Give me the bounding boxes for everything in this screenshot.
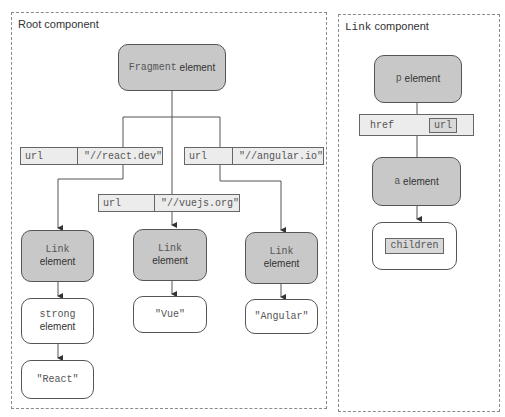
- a-element-node: a element: [372, 157, 461, 206]
- url-prop-vue: url"//vuejs.org": [98, 194, 240, 212]
- link-element-react: Linkelement: [21, 230, 94, 282]
- p-element-node: p element: [374, 55, 462, 103]
- angular-text-node: "Angular": [245, 299, 318, 334]
- react-text-node: "React": [21, 360, 94, 399]
- link-element-angular: Linkelement: [245, 232, 318, 284]
- children-node: children: [372, 222, 457, 270]
- fragment-element-node: Fragment element: [118, 44, 226, 91]
- url-tag: url: [429, 118, 457, 133]
- children-tag: children: [385, 238, 443, 254]
- strong-element-node: strongelement: [21, 298, 94, 344]
- link-element-vue: Linkelement: [133, 229, 207, 281]
- url-prop-react: url"//react.dev": [20, 147, 163, 165]
- url-prop-angular: url"//angular.io": [184, 147, 324, 165]
- vue-text-node: "Vue": [133, 296, 207, 333]
- href-prop: href url: [359, 114, 474, 136]
